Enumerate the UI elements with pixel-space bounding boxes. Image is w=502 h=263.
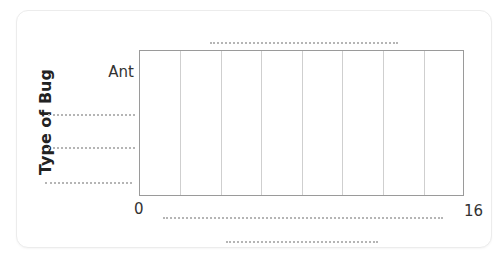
category-label-placeholder-4 [45, 182, 132, 184]
gridline-12 [383, 51, 384, 195]
gridline-6 [261, 51, 262, 195]
x-axis-label-placeholder-1 [163, 217, 443, 219]
chart-title-placeholder [210, 42, 398, 44]
plot-area [139, 50, 464, 196]
category-label-placeholder-2 [48, 114, 135, 116]
gridline-14 [424, 51, 425, 195]
category-label-placeholder-3 [48, 147, 135, 149]
y-axis-title: Type of Bug [36, 69, 55, 175]
x-axis-label-placeholder-2 [226, 241, 378, 243]
gridline-8 [302, 51, 303, 195]
x-tick-min: 0 [134, 200, 144, 218]
category-label-ant: Ant [108, 63, 134, 81]
x-tick-max: 16 [464, 202, 483, 220]
gridline-2 [180, 51, 181, 195]
gridline-4 [221, 51, 222, 195]
gridline-10 [342, 51, 343, 195]
